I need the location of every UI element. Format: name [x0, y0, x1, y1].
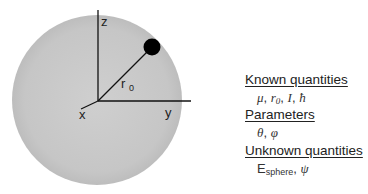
z-axis-label: z [101, 14, 108, 29]
parameters-block: Parameters θ, φ [245, 107, 315, 144]
psi-symbol: ψ [300, 161, 308, 176]
known-quantities-block: Known quantities μ, r0, I, ħ [245, 72, 348, 112]
separator: , [264, 90, 271, 105]
energy-symbol: E [257, 161, 266, 176]
phi-symbol: φ [271, 125, 278, 140]
energy-subscript: sphere [266, 167, 294, 177]
known-quantities-heading: Known quantities [245, 72, 348, 88]
unknown-quantities-block: Unknown quantities Esphere, ψ [245, 143, 363, 183]
y-axis-label: y [165, 105, 172, 120]
radius-symbol: r [121, 76, 126, 91]
parameters-values: θ, φ [245, 125, 315, 141]
separator: , [280, 90, 287, 105]
unknown-quantities-values: Esphere, ψ [245, 161, 363, 180]
separator: , [263, 125, 270, 140]
x-axis-label: x [79, 107, 86, 122]
radius-subscript: 0 [129, 83, 134, 93]
hbar-symbol: ħ [299, 90, 306, 105]
unknown-quantities-heading: Unknown quantities [245, 143, 363, 159]
particle [144, 39, 161, 56]
parameters-heading: Parameters [245, 107, 315, 123]
